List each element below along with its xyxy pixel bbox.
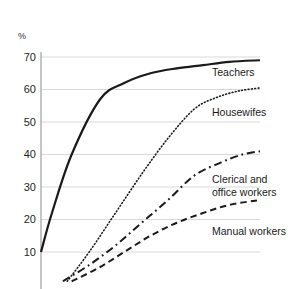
y-axis-tick-label: 30 xyxy=(14,182,36,193)
series-label-teachers: Teachers xyxy=(212,66,255,79)
y-axis-tick-label: 70 xyxy=(14,52,36,63)
series-lines xyxy=(41,60,260,281)
y-axis-tick-label: 40 xyxy=(14,149,36,160)
series-label-manual-workers: Manual workers xyxy=(212,225,286,238)
y-axis-tick-label: 10 xyxy=(14,247,36,258)
series-line xyxy=(72,200,260,281)
y-axis-tick-label: 60 xyxy=(14,84,36,95)
series-label-clerical-and-office-workers: Clerical and office workers xyxy=(212,173,277,198)
y-axis-tick-label: 20 xyxy=(14,214,36,225)
gridlines xyxy=(41,57,260,252)
series-line xyxy=(63,151,260,281)
series-label-housewifes: Housewifes xyxy=(212,106,266,119)
line-chart: % 70605040302010 TeachersHousewifesCleri… xyxy=(0,0,288,289)
plot-area xyxy=(0,0,288,289)
y-axis-tick-label: 50 xyxy=(14,117,36,128)
